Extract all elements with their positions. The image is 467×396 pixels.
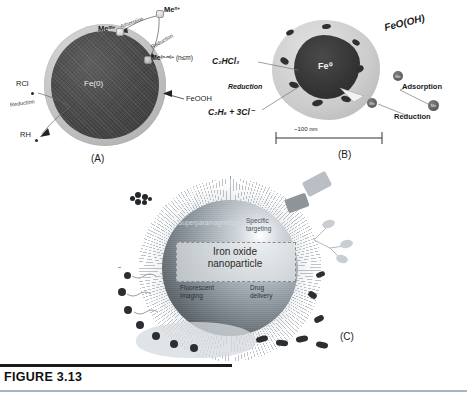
drug-particle [190, 344, 198, 352]
panel-c-quadrant-superparamagnetism: Superparamagnetism [178, 220, 240, 227]
panel-a-metal-ion-n-label: Men+ [164, 6, 180, 14]
panel-b-product-label: C₂H₆ + 3Cl⁻ [208, 108, 254, 117]
drug-particle [124, 272, 131, 279]
panel-b-metal-species: Me [367, 98, 377, 108]
panel-b: Fe⁰ Me Me Me FeO(OH) C₂HCl₃ Reduction C₂… [232, 0, 467, 175]
panel-a-metal-reduced-label: Me(n-m)+ (n≤m) [151, 54, 193, 62]
panel-b-label: (B) [338, 150, 351, 161]
antibody-icon [339, 239, 353, 250]
antibody-icon [335, 254, 349, 265]
antibody-icon [321, 218, 336, 230]
magnet-cluster-icon [130, 192, 152, 206]
panel-c-quadrant-drug-delivery: Drug delivery [250, 284, 272, 301]
drug-rod [296, 335, 309, 343]
panel-a-reduction-top-label: Reduction [150, 33, 174, 50]
panel-a-rcl-dot [31, 92, 34, 95]
panel-a-product-rh-label: RH [20, 131, 31, 139]
drug-particle [124, 306, 132, 314]
drug-particle [136, 321, 144, 329]
panel-c-label: (C) [340, 332, 354, 343]
drug-particle [170, 340, 178, 348]
panel-c: Iron oxide nanoparticle Superparamagneti… [118, 176, 378, 362]
panel-a-metal-ion-marker [156, 10, 164, 18]
panel-b-reduction-right-label: Reduction [394, 113, 431, 121]
panel-a-adsorption-label: Adsorption [120, 16, 144, 29]
panel-c-quadrant-specific-targeting: Specific targeting [246, 217, 271, 234]
panel-b-reactant-label: C₂HCl₃ [212, 57, 239, 66]
panel-a-core-texture [51, 31, 159, 139]
caption-rule-bottom [0, 390, 467, 392]
panel-b-oxide-label: FeO(OH) [383, 13, 425, 33]
figure-3-13: Fe(0) Men+ Mem+ Me(n-m)+ (n≤m) Adsorptio… [0, 0, 467, 396]
drug-rod [316, 341, 329, 349]
vesicle-shell [136, 322, 256, 358]
panel-a-rh-dot [35, 139, 38, 142]
panel-a-reduction-left-label: Reduction [10, 99, 35, 108]
panel-a-core-label: Fe(0) [84, 80, 103, 88]
drug-particle [152, 332, 160, 340]
panel-a-label: (A) [91, 154, 104, 165]
panel-a-shell-label: FeOOH [186, 95, 212, 103]
panel-c-center-label: Iron oxide nanoparticle [176, 246, 294, 270]
panel-b-metal-species: Me [428, 100, 439, 111]
panel-b-adsorption-label: Adsorption [402, 83, 442, 91]
panel-b-nanoparticle: Fe⁰ [272, 20, 380, 120]
panel-a-metal-ion-m-label: Mem+ [98, 25, 115, 33]
panel-c-quadrant-fluorescent-imaging: Fluorescent imaging [180, 284, 214, 301]
drug-particle [118, 288, 126, 296]
panel-b-core-label: Fe⁰ [318, 62, 333, 71]
panel-a: Fe(0) Men+ Mem+ Me(n-m)+ (n≤m) Adsorptio… [0, 0, 232, 175]
caption-rule-top [0, 364, 232, 367]
panel-a-metal-adsorbed-marker [116, 28, 124, 36]
figure-caption: FIGURE 3.13 [4, 371, 82, 384]
panel-b-reduction-left-label: Reduction [228, 83, 262, 90]
panel-a-reactant-rcl-label: RCl [16, 80, 29, 88]
panel-b-metal-species: Me [393, 71, 403, 81]
panel-b-scale-bar-label: ~100 nm [294, 126, 318, 132]
